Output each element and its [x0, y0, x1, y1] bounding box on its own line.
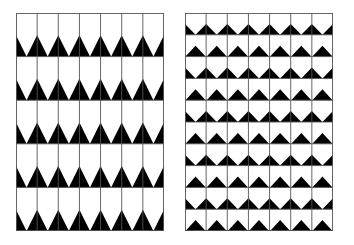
left-pattern-panel	[16, 13, 164, 231]
right-pattern-svg	[185, 13, 333, 231]
left-pattern-svg	[16, 13, 164, 231]
right-pattern-panel	[185, 13, 333, 231]
